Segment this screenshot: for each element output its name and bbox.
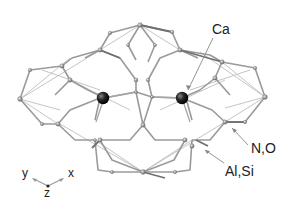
framework-bonds	[20, 25, 265, 172]
axis-label-y: y	[22, 167, 28, 179]
label-ca: Ca	[212, 22, 230, 36]
thin-bonds	[20, 25, 265, 172]
label-al-si: Al,Si	[225, 164, 254, 178]
ca-atom-left	[97, 92, 109, 104]
crystal-structure-figure: Ca N,O Al,Si y x z	[0, 0, 297, 216]
framework-atoms	[18, 23, 268, 175]
ca-atom-right	[176, 92, 188, 104]
framework-diagram	[0, 0, 297, 216]
axis-label-x: x	[68, 167, 74, 179]
ca-bonds	[96, 92, 190, 122]
label-n-o: N,O	[251, 141, 276, 155]
axis-label-z: z	[44, 187, 50, 199]
